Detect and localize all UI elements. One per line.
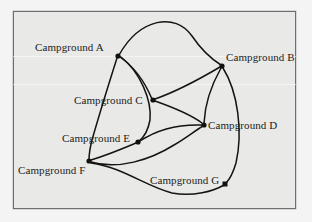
edge-c-b <box>155 67 220 99</box>
screenshot-root: Campground A Campground B Campground C C… <box>0 0 312 222</box>
node-campground-a[interactable] <box>115 53 120 58</box>
label-campground-a: Campground A <box>35 42 104 53</box>
label-campground-c: Campground C <box>74 95 143 106</box>
edge-b-d <box>204 68 221 123</box>
label-campground-b: Campground B <box>226 52 295 63</box>
node-campground-g[interactable] <box>223 182 228 187</box>
edge-a-b <box>119 22 221 65</box>
label-campground-e: Campground E <box>62 133 130 144</box>
node-campground-b[interactable] <box>219 63 224 68</box>
node-campground-e[interactable] <box>135 139 140 144</box>
label-campground-g: Campground G <box>150 175 219 186</box>
edge-a-f <box>89 58 117 160</box>
label-campground-f: Campground F <box>18 165 86 176</box>
node-campground-c[interactable] <box>150 97 155 102</box>
node-campground-d[interactable] <box>201 122 206 127</box>
edge-e-f <box>91 143 136 160</box>
node-campground-f[interactable] <box>86 158 91 163</box>
edge-a-c <box>120 57 152 99</box>
label-campground-d: Campground D <box>208 120 277 131</box>
campground-graph <box>0 0 312 222</box>
edge-c-d <box>155 101 202 123</box>
